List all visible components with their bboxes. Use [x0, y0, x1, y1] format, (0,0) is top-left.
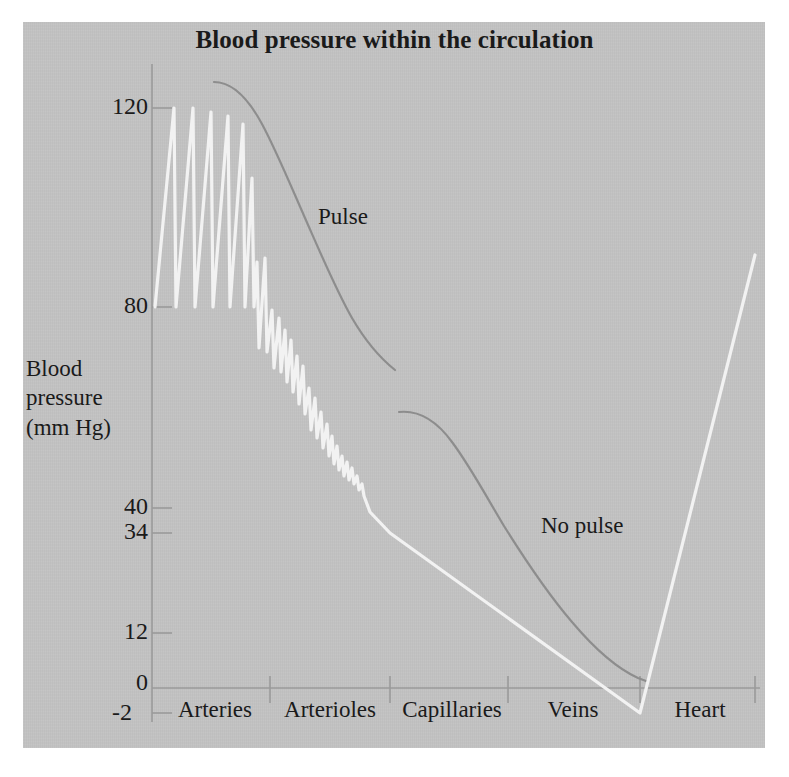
y-tick-label-40: 40	[78, 494, 148, 518]
x-category-label-arteries: Arteries	[160, 697, 270, 723]
y-tick-label-120: 120	[78, 94, 148, 118]
y-axis-title-line-3: (mm Hg)	[26, 413, 156, 442]
annotation-no-pulse: No pulse	[541, 513, 623, 539]
x-category-label-arterioles: Arterioles	[267, 697, 393, 723]
y-axis-title-line-2: pressure	[26, 383, 156, 412]
annotation-pulse: Pulse	[318, 204, 368, 230]
chart-title: Blood pressure within the circulation	[0, 26, 789, 54]
x-category-label-capillaries: Capillaries	[390, 697, 514, 723]
y-tick-label-34: 34	[78, 519, 148, 543]
x-category-label-veins: Veins	[513, 697, 633, 723]
x-category-label-heart: Heart	[645, 697, 755, 723]
y-tick-label-0: 0	[78, 670, 148, 694]
y-tick-label-minus-2: -2	[62, 700, 132, 724]
y-axis-title-line-1: Blood	[26, 354, 156, 383]
y-tick-label-80: 80	[78, 293, 148, 317]
y-axis-title: Blood pressure (mm Hg)	[26, 354, 156, 442]
figure-container: Blood pressure within the circulation 12…	[0, 0, 789, 777]
y-tick-label-12: 12	[78, 619, 148, 643]
